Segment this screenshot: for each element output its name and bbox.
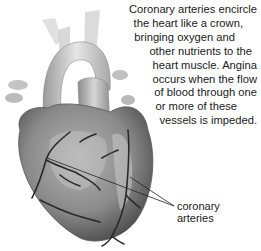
caption-line: vessels is impeded. — [117, 114, 257, 128]
caption-line: other nutrients to the — [117, 45, 252, 59]
label-line: arteries — [177, 212, 220, 224]
caption-line: Coronary arteries encircle — [117, 3, 257, 17]
caption-text: Coronary arteries encircle the heart lik… — [117, 3, 257, 128]
caption-line: heart muscle. Angina — [117, 59, 257, 73]
label-line: coronary — [177, 200, 220, 212]
caption-line: occurs when the flow — [117, 73, 257, 87]
caption-line: or more of these — [117, 100, 237, 114]
caption-line: of blood through one — [117, 86, 257, 100]
caption-line: bringing oxygen and — [117, 31, 235, 45]
coronary-arteries-label: coronary arteries — [177, 200, 220, 224]
caption-line: the heart like a crown, — [117, 17, 243, 31]
